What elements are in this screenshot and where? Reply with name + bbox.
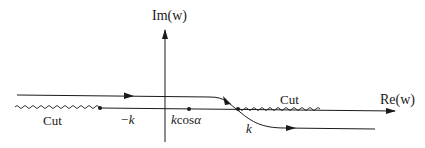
- contour-arrow-right: [286, 125, 296, 131]
- minus-k-label: −k: [120, 112, 135, 127]
- contour-diagram: Im(w) Re(w) Cut Cut −k kcosα k: [0, 0, 425, 148]
- k-label: k: [246, 121, 252, 136]
- contour-arrow-left: [124, 93, 134, 100]
- left-cut-label: Cut: [43, 113, 62, 128]
- real-axis-label: Re(w): [380, 92, 415, 108]
- right-cut-label: Cut: [280, 92, 299, 107]
- point-k: [236, 107, 240, 111]
- point-k-cos-alpha: [187, 107, 191, 111]
- imaginary-axis-label: Im(w): [152, 8, 187, 24]
- point-minus-k: [98, 106, 102, 110]
- contour-arrow-middle: [223, 96, 231, 105]
- k-cos-alpha-label: kcosα: [171, 112, 202, 127]
- left-branch-cut: [15, 106, 100, 109]
